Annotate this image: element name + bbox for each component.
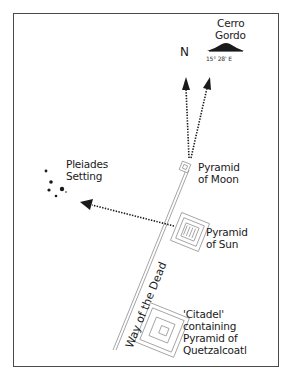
pleiades-stars-icon xyxy=(45,170,67,198)
cerro-gordo-label-line2: Gordo xyxy=(215,29,246,41)
citadel-label-line4: Quetzalcoatl xyxy=(183,344,247,356)
pleiades-arrowhead-icon xyxy=(80,199,93,210)
north-arrowhead-icon xyxy=(182,77,190,90)
pleiades-label-line1: Pleiades xyxy=(66,158,108,170)
pleiades-arrow xyxy=(92,205,174,226)
north-label: N xyxy=(180,46,189,58)
pyramid-sun-label-line2: of Sun xyxy=(206,238,238,250)
cerro-gordo-arrowhead-icon xyxy=(203,77,211,90)
pyramid-moon-label-line2: of Moon xyxy=(198,173,239,185)
pyramid-of-moon-icon xyxy=(179,161,191,173)
citadel-label-line2: containing xyxy=(183,320,236,332)
map-drawing xyxy=(0,0,294,383)
north-arrow xyxy=(186,88,189,158)
pyramid-of-sun-icon xyxy=(170,212,209,251)
pleiades-label-line2: Setting xyxy=(66,170,102,182)
cerro-gordo-arrow xyxy=(191,88,207,158)
bearing-label: 15° 28' E xyxy=(206,55,232,62)
citadel-label-line1: 'Citadel' xyxy=(183,308,224,320)
pyramid-moon-label-line1: Pyramid xyxy=(198,161,240,173)
pyramid-sun-label-line1: Pyramid xyxy=(206,226,248,238)
cerro-gordo-mountain-icon xyxy=(207,43,244,51)
cerro-gordo-label-line1: Cerro xyxy=(217,17,244,29)
citadel-label-line3: Pyramid of xyxy=(183,332,238,344)
